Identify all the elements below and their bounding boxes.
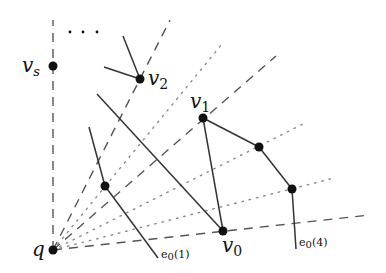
dotted-ray-2 (53, 122, 307, 250)
dotted-ray-1 (53, 44, 222, 250)
edge-e04 (292, 189, 296, 249)
edge-v1-v0 (203, 118, 223, 231)
edge-e01 (105, 186, 158, 258)
edge-v2-left (104, 67, 140, 79)
vertex-v2 (136, 75, 145, 84)
vertex-vs (49, 62, 58, 71)
label-q: q (32, 237, 45, 261)
vertex-a (255, 143, 264, 152)
solid-edges (89, 36, 296, 258)
edge-c-up (89, 127, 105, 186)
label-v1: v1 (190, 89, 210, 115)
edge-v1-a (203, 118, 259, 147)
label-vs: vs (22, 53, 40, 79)
dashed-ray-1 (53, 20, 170, 250)
diagram-canvas: q vs v2 v1 v0 e0(1) e0(4) (0, 0, 386, 273)
vertex-b (288, 185, 297, 194)
label-v0: v0 (222, 233, 242, 259)
label-e04: e0(4) (299, 236, 327, 250)
edge-v2-up (123, 36, 140, 79)
ellipsis-dots (69, 31, 99, 34)
vertex-q (49, 246, 58, 255)
label-v2: v2 (148, 66, 168, 92)
vertex-c (101, 182, 110, 191)
edge-a-b (259, 147, 292, 189)
vertices (49, 62, 297, 255)
label-e01: e0(1) (161, 248, 189, 262)
dashed-rays (53, 20, 370, 250)
